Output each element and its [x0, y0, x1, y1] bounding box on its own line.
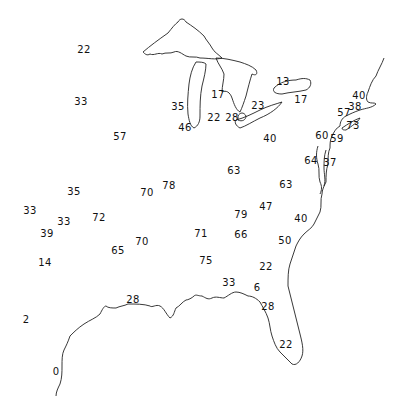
map-value-label: 14: [38, 258, 51, 268]
map-value-label: 50: [278, 236, 291, 246]
map-value-label: 70: [140, 188, 153, 198]
map-value-label: 28: [261, 302, 274, 312]
map-value-label: 13: [276, 77, 289, 87]
map-value-label: 23: [251, 101, 264, 111]
map-value-label: 37: [323, 158, 336, 168]
map-value-label: 46: [178, 123, 191, 133]
map-value-label: 60: [315, 131, 328, 141]
map-value-label: 22: [207, 113, 220, 123]
map-value-label: 63: [279, 180, 292, 190]
map-value-label: 71: [194, 229, 207, 239]
map-value-label: 63: [227, 166, 240, 176]
map-value-label: 28: [225, 113, 238, 123]
map-value-label: 78: [162, 181, 175, 191]
map-value-label: 33: [74, 97, 87, 107]
map-value-label: 64: [304, 156, 317, 166]
map-value-label: 39: [40, 229, 53, 239]
lake-michigan-outline: [188, 62, 206, 128]
map-value-label: 17: [294, 95, 307, 105]
map-value-label: 70: [135, 237, 148, 247]
map-value-label: 6: [254, 283, 261, 293]
map-value-label: 35: [171, 102, 184, 112]
chesapeake-outline: [317, 146, 327, 194]
map-value-label: 47: [259, 202, 272, 212]
map-value-label: 0: [53, 367, 60, 377]
map-value-label: 33: [57, 217, 70, 227]
map-value-label: 65: [111, 246, 124, 256]
map-value-label: 79: [234, 210, 247, 220]
map-value-label: 57: [337, 108, 350, 118]
map-value-label: 35: [67, 187, 80, 197]
map-value-label: 40: [294, 214, 307, 224]
map-value-label: 73: [346, 121, 359, 131]
map-value-label: 40: [263, 134, 276, 144]
east-coast-outline: [56, 58, 384, 396]
map-value-label: 66: [234, 230, 247, 240]
map-value-label: 28: [126, 295, 139, 305]
map-value-label: 33: [23, 206, 36, 216]
map-value-label: 59: [330, 134, 343, 144]
map-value-label: 22: [259, 262, 272, 272]
map-value-label: 72: [92, 213, 105, 223]
map-value-label: 22: [279, 340, 292, 350]
map-value-label: 22: [77, 45, 90, 55]
map-value-label: 57: [113, 132, 126, 142]
map-value-label: 2: [23, 315, 30, 325]
map-value-label: 40: [352, 91, 365, 101]
lake-superior-outline: [143, 19, 222, 59]
map-value-label: 17: [211, 90, 224, 100]
map-value-label: 75: [199, 256, 212, 266]
map-value-label: 33: [222, 278, 235, 288]
map-outline: [0, 0, 407, 399]
